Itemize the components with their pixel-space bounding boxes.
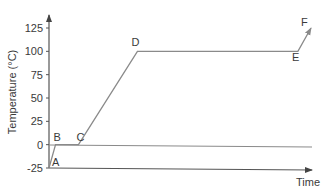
y-tick-label: 0 <box>37 139 43 151</box>
zero-reference-line <box>49 145 312 147</box>
y-ticks: -250255075100125 <box>25 22 49 174</box>
heating-curve-chart: -250255075100125 ABCDEF Time Temperature… <box>0 0 329 193</box>
point-label-f: F <box>301 16 308 28</box>
x-axis-label: Time <box>296 176 320 188</box>
point-label-b: B <box>54 131 61 143</box>
x-axis <box>49 168 312 170</box>
y-tick-label: 100 <box>25 45 43 57</box>
point-label-d: D <box>131 36 139 48</box>
y-tick-label: -25 <box>27 162 43 174</box>
y-axis-label: Temperature (°C) <box>6 50 18 134</box>
y-tick-label: 50 <box>31 92 43 104</box>
point-label-c: C <box>76 131 84 143</box>
y-tick-label: 25 <box>31 115 43 127</box>
y-tick-label: 75 <box>31 69 43 81</box>
point-label-e: E <box>292 51 299 63</box>
y-tick-label: 125 <box>25 22 43 34</box>
point-label-a: A <box>52 156 60 168</box>
